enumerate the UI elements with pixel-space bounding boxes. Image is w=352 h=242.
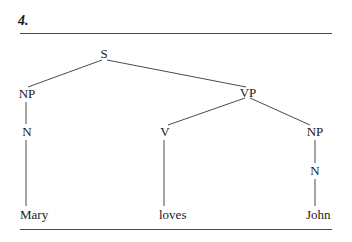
leaf-john: John <box>306 208 331 222</box>
node-np-subject: NP <box>19 87 36 101</box>
node-v: V <box>160 125 169 139</box>
node-n-subject: N <box>22 125 31 139</box>
node-s: S <box>100 47 107 61</box>
tree-branches <box>0 0 352 242</box>
leaf-mary: Mary <box>20 208 48 222</box>
branch-s-vp <box>107 60 246 87</box>
branch-vp-np-right <box>250 98 310 125</box>
node-np-object: NP <box>307 125 324 139</box>
branch-s-np <box>28 60 102 87</box>
node-vp: VP <box>240 86 257 100</box>
node-n-object: N <box>310 164 319 178</box>
bottom-rule <box>20 229 332 230</box>
leaf-loves: loves <box>159 208 186 222</box>
branch-vp-v <box>168 98 245 125</box>
